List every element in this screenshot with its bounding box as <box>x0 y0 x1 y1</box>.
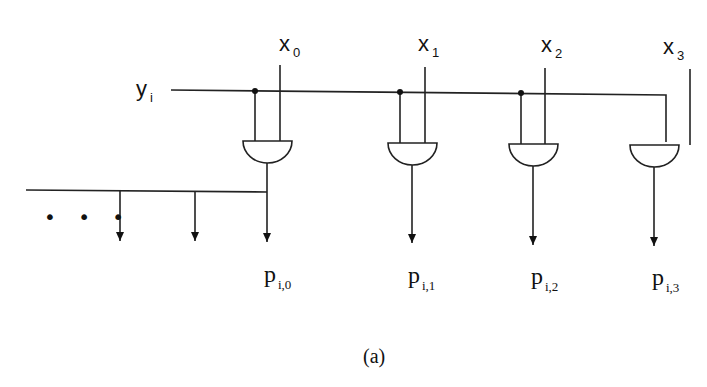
label-x0: x0 <box>279 33 300 59</box>
label-base: x <box>541 32 552 57</box>
label-sub: i,3 <box>666 280 679 295</box>
label-p-i1: pi,1 <box>408 263 435 292</box>
label-base: p <box>408 262 420 288</box>
yi-bus-wire <box>171 90 666 142</box>
label-sub: i,1 <box>422 278 435 293</box>
shift-bus-wire <box>26 190 267 192</box>
and-gate-3 <box>630 145 679 167</box>
label-base: x <box>663 34 674 59</box>
label-base: p <box>531 263 543 289</box>
and-gate-0 <box>243 141 292 163</box>
label-sub: 0 <box>293 45 300 60</box>
label-p-i2: pi,2 <box>531 264 558 293</box>
label-x3: x3 <box>663 36 684 62</box>
figure-caption: (a) <box>363 345 385 368</box>
label-base: y <box>136 76 147 101</box>
label-base: p <box>652 264 664 290</box>
junction-dot-2 <box>518 90 524 96</box>
label-base: x <box>279 31 290 56</box>
label-p-i3: pi,3 <box>652 265 679 294</box>
label-x2: x2 <box>541 34 562 60</box>
label-x1: x1 <box>418 33 439 59</box>
ellipsis: • • • <box>44 205 132 229</box>
label-sub: i,2 <box>545 279 558 294</box>
junction-dot-1 <box>397 89 403 95</box>
circuit-diagram <box>0 0 707 387</box>
and-gate-2 <box>509 144 558 166</box>
label-sub: i <box>150 90 153 105</box>
label-p-i0: pi,0 <box>264 262 291 291</box>
and-gate-1 <box>388 143 437 165</box>
label-sub: 2 <box>555 46 562 61</box>
label-sub: 1 <box>432 45 439 60</box>
label-sub: 3 <box>677 48 684 63</box>
junction-dot-0 <box>252 88 258 94</box>
label-sub: i,0 <box>278 277 291 292</box>
label-base: p <box>264 261 276 287</box>
label-y-i: yi <box>136 78 153 104</box>
label-base: x <box>418 31 429 56</box>
